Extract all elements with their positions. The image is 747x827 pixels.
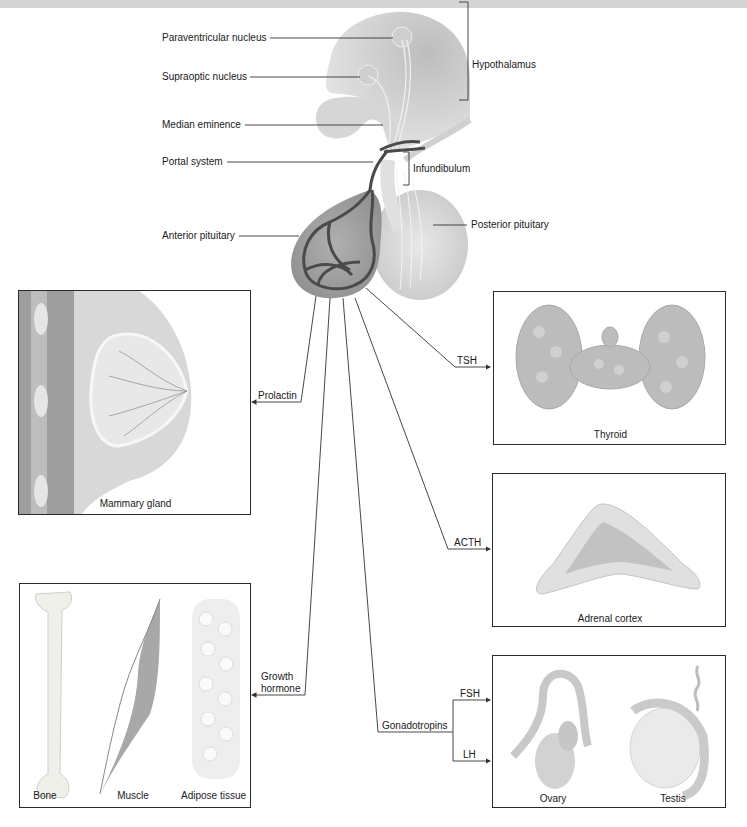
hormone-prolactin: Prolactin bbox=[258, 390, 297, 402]
hypothalamus-illustration bbox=[316, 12, 470, 160]
thyroid-panel: Thyroid bbox=[493, 291, 726, 445]
caption-testis: Testis bbox=[643, 793, 703, 805]
label-median-eminence: Median eminence bbox=[162, 119, 241, 131]
adrenal-cortex-panel: Adrenal cortex bbox=[492, 473, 726, 627]
gonads-panel: Ovary Testis bbox=[492, 655, 726, 808]
label-paraventricular-nucleus: Paraventricular nucleus bbox=[162, 32, 267, 44]
caption-ovary: Ovary bbox=[523, 793, 583, 805]
hormone-lh: LH bbox=[463, 749, 476, 761]
label-anterior-pituitary: Anterior pituitary bbox=[162, 230, 235, 242]
caption-thyroid: Thyroid bbox=[494, 429, 726, 441]
label-infundibulum: Infundibulum bbox=[413, 163, 470, 175]
hormone-gonadotropins: Gonadotropins bbox=[382, 720, 448, 732]
label-posterior-pituitary: Posterior pituitary bbox=[471, 219, 549, 231]
hormone-growth-line1: Growth bbox=[261, 671, 293, 683]
caption-adipose-tissue: Adipose tissue bbox=[175, 790, 251, 802]
mammary-gland-panel: Mammary gland bbox=[18, 290, 251, 515]
caption-muscle: Muscle bbox=[108, 790, 158, 802]
hormone-tsh: TSH bbox=[457, 355, 477, 367]
caption-adrenal-cortex: Adrenal cortex bbox=[493, 613, 726, 625]
hormone-growth-line2: hormone bbox=[261, 683, 300, 695]
caption-bone: Bone bbox=[25, 790, 65, 802]
label-portal-system: Portal system bbox=[162, 156, 223, 168]
caption-mammary-gland: Mammary gland bbox=[19, 498, 251, 510]
growth-targets-panel: Bone Muscle Adipose tissue bbox=[19, 583, 251, 808]
label-supraoptic-nucleus: Supraoptic nucleus bbox=[162, 71, 247, 83]
hormone-fsh: FSH bbox=[460, 688, 480, 700]
label-hypothalamus: Hypothalamus bbox=[472, 59, 536, 71]
hormone-acth: ACTH bbox=[454, 537, 481, 549]
